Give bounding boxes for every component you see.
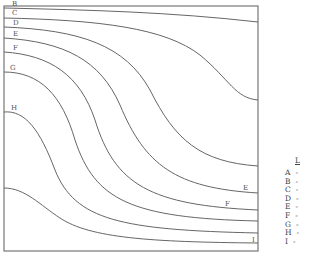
legend-value: - — [295, 211, 298, 220]
contour-label: G — [10, 64, 16, 72]
contour-line-i — [4, 188, 258, 243]
legend-key: I — [285, 237, 288, 246]
contour-label: D — [13, 19, 19, 27]
legend-title: L — [285, 153, 300, 169]
legend-value: - — [297, 228, 300, 237]
legend-item: I- — [285, 238, 300, 247]
contour-label: F — [225, 200, 230, 208]
contour-label: F — [13, 44, 18, 52]
contour-line-d — [4, 27, 258, 166]
contour-line-f — [4, 52, 258, 210]
contour-label: E — [13, 30, 18, 38]
legend: L A- B- C- D- E- F- G- H- I- — [285, 153, 300, 246]
contour-line-g — [4, 72, 258, 221]
legend-value: - — [295, 168, 298, 177]
legend-value: - — [293, 237, 296, 246]
contour-curves — [4, 8, 258, 243]
contour-label: B — [12, 0, 17, 8]
contour-label: I — [252, 236, 255, 244]
contour-line-b — [4, 8, 258, 22]
contour-label: E — [243, 184, 248, 192]
contour-label: C — [12, 9, 17, 17]
legend-value: - — [296, 185, 299, 194]
contour-line-h — [4, 112, 258, 233]
contour-label: H — [11, 104, 17, 112]
contour-plot: BCDEFGHEFI — [0, 0, 312, 255]
contour-line-e — [4, 38, 258, 193]
